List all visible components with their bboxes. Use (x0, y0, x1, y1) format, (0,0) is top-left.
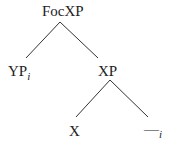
node-trace-label: — (144, 121, 159, 137)
node-xp: XP (98, 64, 117, 79)
node-x-label: X (69, 123, 80, 139)
node-focxp: FocXP (42, 4, 84, 19)
edge-xp-x (76, 80, 110, 117)
edge-xp-trace (110, 80, 148, 117)
node-yp-subscript: i (27, 70, 30, 82)
node-focxp-label: FocXP (42, 3, 84, 19)
node-yp-label: YP (8, 63, 27, 79)
node-trace-subscript: i (159, 128, 162, 140)
node-yp: YPi (8, 64, 30, 80)
node-xp-label: XP (98, 63, 117, 79)
node-trace: —i (144, 122, 162, 138)
node-x: X (69, 124, 80, 139)
edge-focxp-xp (60, 22, 98, 58)
edge-focxp-yp (26, 22, 60, 58)
